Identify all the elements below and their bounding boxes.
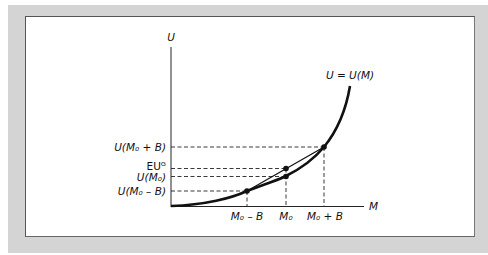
y-label-u-high: U(M₀ + B) bbox=[114, 141, 166, 153]
y-label-u-mid: U(M₀) bbox=[137, 171, 166, 183]
point-high bbox=[321, 144, 327, 150]
point-certain bbox=[283, 174, 289, 180]
x-axis-label: M bbox=[369, 200, 378, 212]
point-low bbox=[244, 188, 250, 194]
point-expected-utility bbox=[283, 166, 289, 172]
utility-diagram: U M U = U(M) U(M₀ + B) EUᴳ U(M₀) U(M₀ – … bbox=[0, 0, 488, 255]
x-label-m-mid: M₀ bbox=[279, 210, 293, 222]
dashed-guides bbox=[171, 147, 324, 206]
x-label-m-high: M₀ + B bbox=[307, 210, 343, 222]
y-label-u-low: U(M₀ – B) bbox=[118, 185, 166, 197]
x-label-m-low: M₀ – B bbox=[231, 210, 263, 222]
y-axis-label: U bbox=[167, 31, 175, 43]
curve-label: U = U(M) bbox=[326, 69, 374, 81]
